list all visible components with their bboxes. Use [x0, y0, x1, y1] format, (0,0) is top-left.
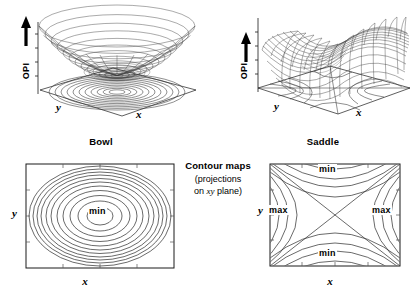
contour-maps-legend: Contour maps (projections on xy plane) — [176, 160, 260, 198]
saddle-contour-max-right-label: max — [371, 205, 392, 215]
saddle-contour-x-label: x — [258, 275, 406, 288]
saddle-contour-min-bottom-label: min — [318, 248, 337, 258]
saddle-contour-max-left-label: max — [268, 205, 289, 215]
legend-line-3-suffix: plane) — [214, 186, 242, 196]
bowl-opi-axis-label: OPI — [21, 63, 31, 79]
bowl-up-arrow-icon — [21, 16, 31, 46]
bowl-contour-min-label: min — [88, 206, 107, 216]
legend-line-2: (projections — [176, 173, 260, 186]
saddle-up-arrow-icon — [241, 32, 251, 62]
saddle-contour-y-label: y — [258, 204, 263, 216]
bowl-contour-frame — [26, 164, 174, 268]
bowl-contour-map — [12, 160, 180, 272]
legend-line-3-prefix: on — [194, 186, 207, 196]
panel-contour-saddle: min min max max y x — [258, 160, 406, 288]
saddle-x-axis-label: x — [356, 106, 362, 118]
bowl-surface-plot — [10, 4, 206, 126]
bowl-y-axis-label: y — [56, 101, 61, 113]
saddle-opi-axis-label: OPI — [239, 63, 249, 79]
panel-bowl: OPI y x Bowl — [10, 4, 206, 148]
saddle-y-axis-label: y — [274, 100, 279, 112]
figure-root: OPI y x Bowl — [0, 0, 417, 293]
panel-contour-bowl: min y x — [12, 160, 180, 288]
bowl-contour-x-label: x — [12, 275, 180, 288]
saddle-caption: Saddle — [218, 136, 414, 148]
panel-saddle: OPI y x Saddle — [218, 4, 414, 148]
bowl-contour-y-label: y — [12, 207, 17, 219]
bowl-vertical-axis — [35, 22, 38, 94]
legend-title: Contour maps — [176, 160, 260, 173]
legend-line-3: on xy plane) — [176, 185, 260, 198]
bowl-x-axis-label: x — [136, 108, 142, 120]
saddle-contour-min-top-label: min — [318, 164, 337, 174]
bowl-caption: Bowl — [10, 136, 206, 148]
saddle-vertical-axis — [255, 18, 258, 92]
